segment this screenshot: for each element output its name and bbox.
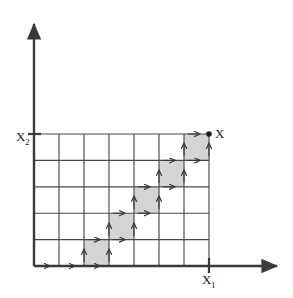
point-X-dot xyxy=(206,131,212,137)
shaded-cell-3 xyxy=(134,187,159,213)
shaded-cell-5 xyxy=(184,134,209,160)
lattice-path-diagram: X 2 X 1 X xyxy=(0,0,293,298)
x-axis-label-sub: 1 xyxy=(211,280,216,290)
point-X-label: X xyxy=(215,126,225,141)
canvas-background xyxy=(0,0,293,298)
y-axis-label-sub: 2 xyxy=(25,137,30,147)
shaded-cell-4 xyxy=(159,160,184,186)
shaded-cell-2 xyxy=(109,213,134,239)
figure-container: X 2 X 1 X xyxy=(0,0,293,298)
shaded-cell-1 xyxy=(84,240,109,266)
